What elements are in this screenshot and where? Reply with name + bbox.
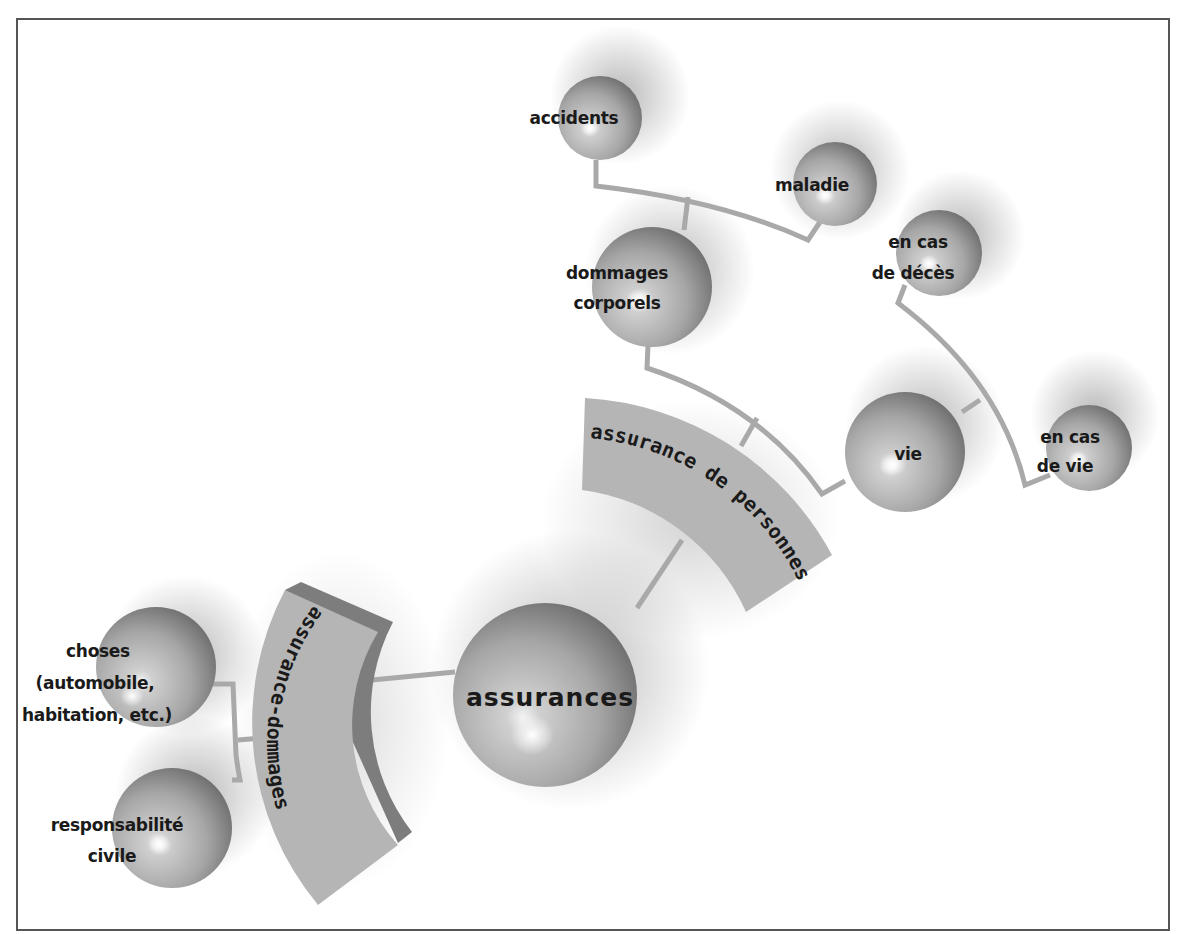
node-vie[interactable]: vie xyxy=(845,392,965,512)
node-label-line: vie xyxy=(894,444,922,464)
node-label-line: de vie xyxy=(1037,456,1093,476)
node-label-line: accidents xyxy=(530,108,619,128)
node-en-cas-de-deces[interactable]: en cas de décès xyxy=(872,210,982,296)
diagram-canvas: assurance de personnes assurance-dommage… xyxy=(0,0,1177,934)
node-label-line: de décès xyxy=(872,263,955,283)
node-label-line: habitation, etc.) xyxy=(22,705,172,725)
node-label-line: dommages xyxy=(566,263,668,283)
node-label-line: en cas xyxy=(888,232,948,252)
node-label-line: (automobile, xyxy=(36,673,155,693)
node-label-line: maladie xyxy=(775,175,849,195)
node-label-line: choses xyxy=(66,641,130,661)
node-accidents[interactable]: accidents xyxy=(530,76,642,160)
node-choses[interactable]: choses (automobile, habitation, etc.) xyxy=(22,607,216,727)
node-label-line: responsabilité xyxy=(51,815,184,835)
node-label-line: en cas xyxy=(1040,427,1100,447)
node-label-line: civile xyxy=(88,846,136,866)
node-root-assurances[interactable]: assurances xyxy=(453,603,637,787)
node-label-line: corporels xyxy=(573,293,660,313)
diagram-svg: assurance de personnes assurance-dommage… xyxy=(0,0,1177,934)
root-label: assurances xyxy=(466,683,634,712)
node-responsabilite-civile[interactable]: responsabilité civile xyxy=(51,768,232,888)
